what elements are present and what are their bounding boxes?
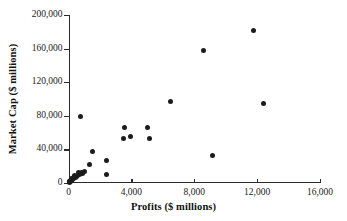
x-tick-mark	[194, 179, 195, 184]
scatter-chart: 040,00080,000120,000160,000200,000 04,00…	[0, 0, 347, 221]
x-axis-title: Profits ($ millions)	[0, 201, 347, 212]
x-tick-mark	[257, 179, 258, 184]
data-point	[122, 125, 127, 130]
data-point	[90, 149, 95, 154]
data-point	[145, 125, 150, 130]
y-tick-label: 120,000	[32, 77, 63, 87]
data-point	[104, 172, 109, 177]
data-point	[87, 162, 92, 167]
data-point	[261, 101, 266, 106]
x-tick-mark	[131, 179, 132, 184]
data-point	[201, 48, 206, 53]
y-tick-label: 160,000	[32, 44, 63, 54]
y-tick-mark	[64, 82, 69, 83]
data-point	[128, 134, 133, 139]
y-tick-label: 80,000	[36, 111, 62, 121]
y-tick-mark	[64, 49, 69, 50]
y-tick-mark	[64, 149, 69, 150]
x-tick-label: 0	[66, 188, 71, 198]
x-tick-mark	[320, 179, 321, 184]
data-point	[251, 28, 256, 33]
x-tick-label: 4,000	[121, 188, 142, 198]
y-tick-mark	[64, 116, 69, 117]
data-point	[121, 136, 126, 141]
y-tick-mark	[64, 15, 69, 16]
x-tick-label: 12,000	[244, 188, 270, 198]
data-point	[78, 114, 83, 119]
y-tick-label: 0	[58, 178, 63, 188]
data-point	[67, 179, 72, 184]
data-point	[168, 99, 173, 104]
x-tick-label: 8,000	[184, 188, 205, 198]
y-axis-line	[69, 15, 70, 183]
plot-area: 040,00080,000120,000160,000200,000 04,00…	[69, 15, 321, 183]
data-point	[80, 171, 85, 176]
x-tick-label: 16,000	[307, 188, 333, 198]
y-axis-title: Market Cap ($ millions)	[7, 9, 18, 189]
y-tick-label: 200,000	[32, 10, 63, 20]
data-point	[147, 136, 152, 141]
data-point	[104, 158, 109, 163]
data-point	[210, 153, 215, 158]
y-tick-label: 40,000	[36, 145, 62, 155]
